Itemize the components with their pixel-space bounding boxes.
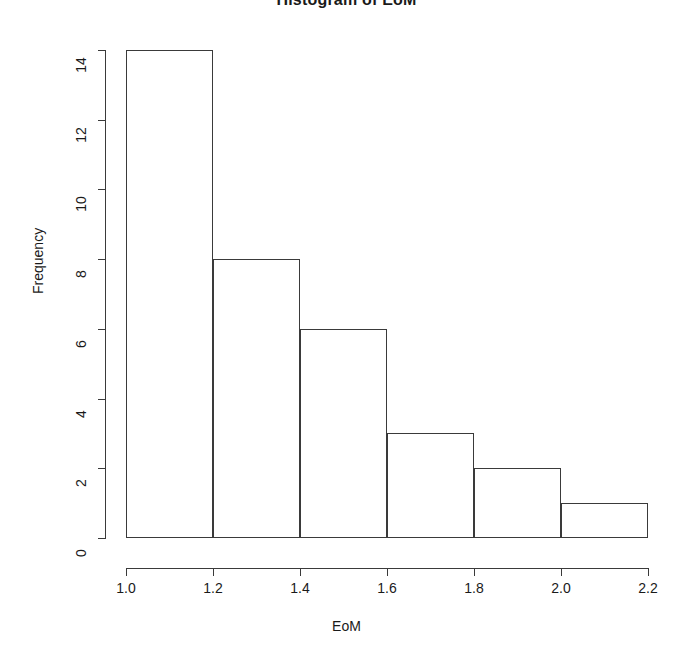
y-axis-tick-label: 12 [73, 120, 89, 150]
y-axis-tick-mark [98, 468, 105, 469]
histogram-bar [474, 468, 561, 538]
x-axis-tick-mark [213, 569, 214, 576]
histogram-bar [561, 503, 648, 538]
y-axis-tick-mark [98, 259, 105, 260]
y-axis-tick-mark [98, 399, 105, 400]
y-axis-tick-label: 4 [73, 399, 89, 429]
x-axis-tick-mark [648, 569, 649, 576]
x-axis-tick-label: 2.0 [531, 580, 591, 596]
y-axis-tick-mark [98, 329, 105, 330]
x-axis-tick-label: 1.2 [183, 580, 243, 596]
x-axis-tick-label: 1.0 [96, 580, 156, 596]
x-axis-title: EoM [0, 618, 693, 634]
y-axis-tick-mark [98, 120, 105, 121]
histogram-bar [126, 50, 213, 538]
y-axis-tick-label: 6 [73, 329, 89, 359]
y-axis-tick-label: 10 [73, 189, 89, 219]
y-axis-line [105, 50, 106, 539]
y-axis-tick-label: 2 [73, 468, 89, 498]
histogram-bar [387, 433, 474, 538]
chart-title: Histogram of EoM [0, 0, 693, 9]
x-axis-tick-mark [561, 569, 562, 576]
x-axis-tick-mark [300, 569, 301, 576]
x-axis-tick-mark [474, 569, 475, 576]
histogram-bar [300, 329, 387, 538]
x-axis-tick-mark [387, 569, 388, 576]
x-axis-tick-mark [126, 569, 127, 576]
y-axis-tick-label: 0 [73, 538, 89, 568]
y-axis-tick-mark [98, 538, 105, 539]
x-axis-tick-label: 1.4 [270, 580, 330, 596]
y-axis-tick-label: 14 [73, 50, 89, 80]
plot-area [126, 50, 648, 538]
histogram-bar [213, 259, 300, 538]
y-axis-tick-mark [98, 50, 105, 51]
histogram-plot: Histogram of EoM Frequency EoM 024681012… [0, 0, 693, 668]
x-axis-tick-label: 2.2 [618, 580, 678, 596]
y-axis-tick-mark [98, 189, 105, 190]
y-axis-title: Frequency [30, 228, 46, 294]
y-axis-tick-label: 8 [73, 259, 89, 289]
x-axis-tick-label: 1.8 [444, 580, 504, 596]
x-axis-tick-label: 1.6 [357, 580, 417, 596]
